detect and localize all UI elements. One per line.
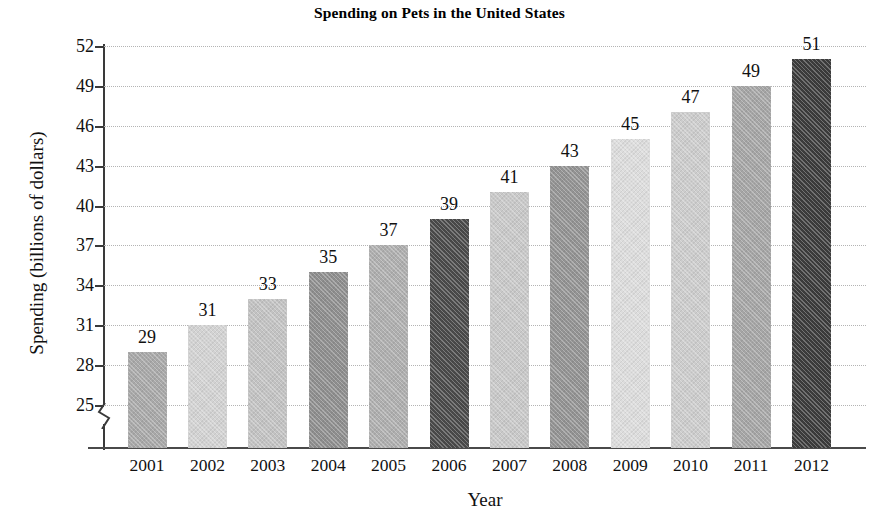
bar-texture [490,192,529,448]
bar-value-label: 31 [198,300,216,321]
bar-texture [128,352,167,448]
bar-texture [369,245,408,448]
y-tick-mark [95,206,104,208]
x-axis-title: Year [104,489,866,511]
bar-value-label: 37 [380,220,398,241]
bar-texture [248,299,287,448]
bar: 43 [550,166,589,448]
y-axis-tick-label: 52 [76,36,94,57]
bar-value-label: 41 [500,167,518,188]
x-axis-tick-label: 2009 [613,455,648,476]
bar-value-label: 51 [802,34,820,55]
y-tick-mark [95,285,104,287]
x-axis-tick-label: 2005 [371,455,406,476]
x-axis-tick-label: 2001 [130,455,165,476]
y-axis-tick-label: 49 [76,75,94,96]
bar-texture [732,86,771,448]
bar-texture [671,112,710,448]
y-axis-tick-label: 31 [76,315,94,336]
y-tick-mark [95,405,104,407]
bar: 51 [792,59,831,448]
bar-texture [792,59,831,448]
bar: 45 [611,139,650,448]
bar-value-label: 35 [319,247,337,268]
bar: 41 [490,192,529,448]
bar-value-label: 39 [440,194,458,215]
x-axis-tick-label: 2012 [794,455,829,476]
y-axis-tick-label: 25 [76,395,94,416]
plot-area: 25283134374043464952 2931333537394143454… [104,46,866,448]
y-tick-mark [95,245,104,247]
bar-texture [309,272,348,448]
x-axis-tick-label: 2003 [250,455,285,476]
x-axis-tick-label: 2006 [432,455,467,476]
bar: 29 [128,352,167,448]
bar: 33 [248,299,287,448]
bar-texture [188,325,227,448]
x-axis-tick-label: 2011 [734,455,768,476]
y-axis-tick-label: 28 [76,355,94,376]
y-tick-mark [95,166,104,168]
bar-value-label: 47 [682,87,700,108]
x-axis-tick-label: 2008 [552,455,587,476]
bar: 39 [430,219,469,448]
y-tick-mark [95,325,104,327]
bar-texture [430,219,469,448]
y-axis-tick-label: 34 [76,275,94,296]
bar-value-label: 33 [259,274,277,295]
bar: 47 [671,112,710,448]
x-axis-tick-label: 2002 [190,455,225,476]
bar-texture [550,166,589,448]
bar: 37 [369,245,408,448]
y-tick-mark [95,365,104,367]
gridline [104,46,866,47]
y-axis-tick-label: 40 [76,195,94,216]
bar: 31 [188,325,227,448]
bar: 35 [309,272,348,448]
x-axis-tick-label: 2010 [673,455,708,476]
bar-value-label: 49 [742,61,760,82]
bar: 49 [732,86,771,448]
x-axis-tick-label: 2007 [492,455,527,476]
bar-value-label: 43 [561,141,579,162]
y-axis-tick-label: 37 [76,235,94,256]
x-axis-tick-label: 2004 [311,455,346,476]
y-tick-mark [95,126,104,128]
y-tick-mark [95,46,104,48]
bar-value-label: 45 [621,114,639,135]
bar-value-label: 29 [138,327,156,348]
chart-title: Spending on Pets in the United States [0,4,879,22]
bar-chart: Spending on Pets in the United States Sp… [0,0,879,522]
y-axis-title: Spending (billions of dollars) [26,78,48,408]
y-axis-tick-label: 43 [76,155,94,176]
bar-texture [611,139,650,448]
y-tick-mark [95,86,104,88]
y-axis-tick-label: 46 [76,115,94,136]
